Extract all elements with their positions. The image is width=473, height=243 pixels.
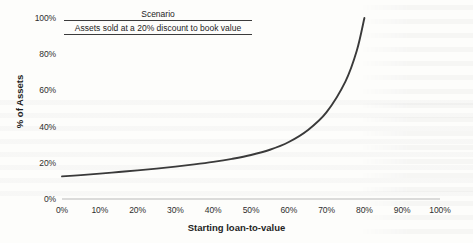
plot-area	[0, 0, 473, 243]
data-curve-assets-sold-at-20-percent-discount	[62, 18, 364, 176]
chart-container: Scenario Assets sold at a 20% discount t…	[0, 0, 473, 243]
